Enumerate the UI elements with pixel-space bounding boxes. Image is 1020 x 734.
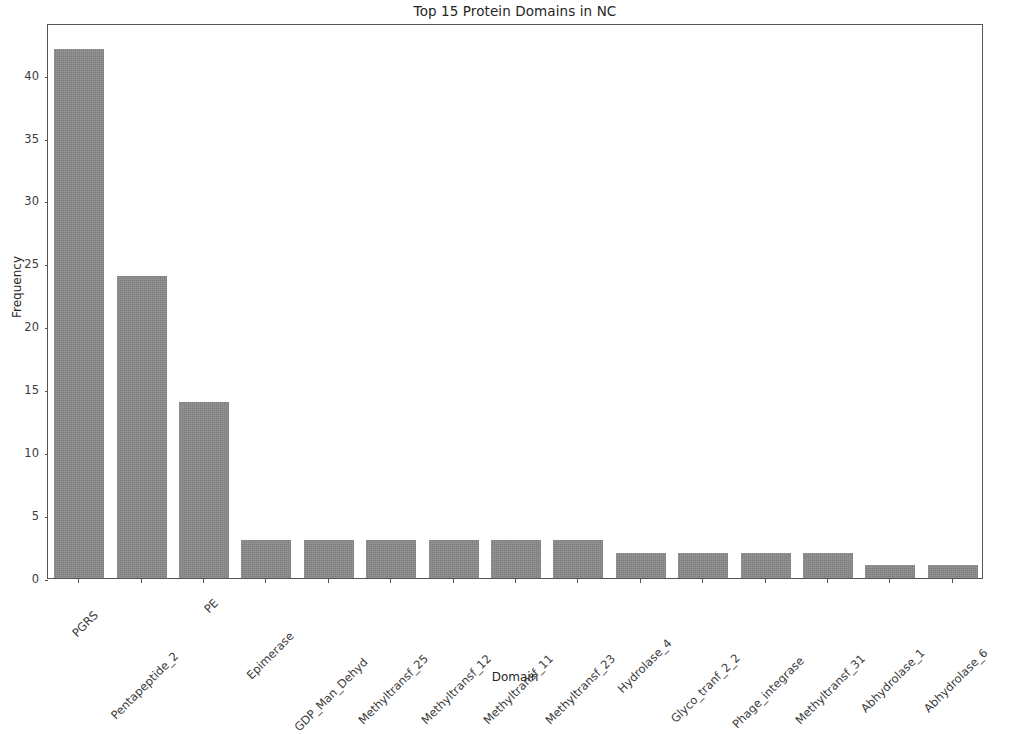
x-axis-tick-label-text: GDP_Man_Dehyd (291, 655, 370, 734)
bar (928, 565, 978, 578)
x-axis-tick-label: Epimerase (287, 586, 340, 639)
bar (179, 402, 229, 578)
bar (366, 540, 416, 578)
x-axis-tick (203, 579, 204, 583)
bar (54, 49, 104, 578)
x-axis-tick-label: Glyco_tranf_2_2 (733, 586, 808, 661)
x-axis-tick (265, 579, 266, 583)
bar (678, 553, 728, 578)
bar (491, 540, 541, 578)
y-axis-tick-label: 20 (24, 320, 39, 334)
bar (304, 540, 354, 578)
x-axis-tick (78, 579, 79, 583)
bars-layer (48, 25, 982, 578)
x-axis-tick (889, 579, 890, 583)
bar (865, 565, 915, 578)
y-axis-tick (45, 454, 49, 455)
x-axis-tick (952, 579, 953, 583)
y-axis-tick (45, 140, 49, 141)
x-axis-tick (141, 579, 142, 583)
x-axis-tick (390, 579, 391, 583)
bar (616, 553, 666, 578)
y-axis-tick (45, 265, 49, 266)
y-axis-tick-label: 5 (32, 509, 39, 523)
x-axis-label: Domain (47, 670, 983, 684)
y-axis-tick-label: 10 (24, 446, 39, 460)
bar (241, 540, 291, 578)
y-axis-tick-labels: 0510152025303540 (0, 24, 39, 579)
y-axis-tick-label: 25 (24, 257, 39, 271)
y-axis-tick-label: 15 (24, 383, 39, 397)
bar (429, 540, 479, 578)
x-axis-tick (328, 579, 329, 583)
x-axis-tick-label-text: Pentapeptide_2 (108, 649, 181, 722)
y-axis-tick (45, 328, 49, 329)
y-axis-tick (45, 517, 49, 518)
y-axis-tick-label: 35 (24, 132, 39, 146)
bar (741, 553, 791, 578)
y-axis-tick-label: 30 (24, 194, 39, 208)
bar (803, 553, 853, 578)
x-axis-tick-label-text: Glyco_tranf_2_2 (668, 651, 743, 726)
x-axis-tick (702, 579, 703, 583)
x-axis-tick (577, 579, 578, 583)
bar (553, 540, 603, 578)
x-axis-tick-label: Pentapeptide_2 (171, 586, 244, 659)
y-axis-tick (45, 391, 49, 392)
x-axis-tick-label-text: PGRS (69, 608, 101, 640)
x-axis-tick-label: PGRS (91, 586, 123, 618)
y-axis-tick (45, 77, 49, 78)
chart-title: Top 15 Protein Domains in NC (47, 3, 983, 19)
bar (117, 276, 167, 578)
x-axis-tick (453, 579, 454, 583)
plot-area (47, 24, 983, 579)
y-axis-tick-label: 0 (32, 572, 39, 586)
y-axis-tick (45, 202, 49, 203)
x-axis-tick (515, 579, 516, 583)
x-axis-tick (765, 579, 766, 583)
x-axis-tick (640, 579, 641, 583)
y-axis-tick-label: 40 (24, 69, 39, 83)
x-axis-tick (827, 579, 828, 583)
